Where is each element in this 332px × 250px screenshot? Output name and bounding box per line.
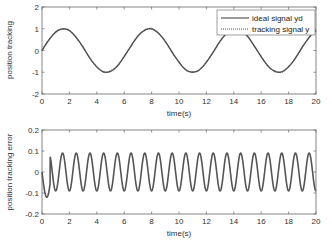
top-ytick-label: 0 bbox=[35, 47, 40, 56]
bottom-ytick-label: -0.1 bbox=[25, 189, 39, 198]
figure: 02468101214161820-2-1012 position tracki… bbox=[0, 0, 332, 250]
legend: ideal signal yd tracking signal y bbox=[217, 10, 315, 35]
bottom-xtick-label: 4 bbox=[95, 217, 100, 226]
bottom-xtick-label: 6 bbox=[122, 217, 127, 226]
top-x-label: time(s) bbox=[167, 109, 192, 118]
top-ytick-label: 1 bbox=[35, 25, 40, 34]
top-xtick-label: 4 bbox=[95, 97, 100, 106]
top-y-label: position tracking bbox=[5, 21, 14, 79]
top-ytick-label: -2 bbox=[32, 90, 40, 99]
bottom-xtick-label: 0 bbox=[40, 217, 45, 226]
top-xtick-label: 16 bbox=[257, 97, 266, 106]
bottom-xtick-label: 10 bbox=[175, 217, 184, 226]
bottom-xtick-label: 8 bbox=[149, 217, 154, 226]
top-xtick-label: 20 bbox=[312, 97, 321, 106]
bottom-ytick-label: -0.2 bbox=[25, 210, 39, 219]
top-xtick-label: 14 bbox=[229, 97, 238, 106]
legend-label-ideal: ideal signal yd bbox=[252, 14, 303, 23]
bottom-xtick-label: 20 bbox=[312, 217, 321, 226]
top-xtick-label: 6 bbox=[122, 97, 127, 106]
top-xtick-label: 8 bbox=[149, 97, 154, 106]
bottom-ytick-label: 0.1 bbox=[28, 147, 40, 156]
bottom-x-label: time(s) bbox=[167, 229, 192, 238]
legend-label-tracking: tracking signal y bbox=[252, 25, 309, 34]
top-xtick-label: 10 bbox=[175, 97, 184, 106]
bottom-xtick-label: 2 bbox=[67, 217, 72, 226]
bottom-ytick-label: 0.2 bbox=[28, 126, 40, 135]
bottom-axes-box bbox=[42, 130, 316, 214]
bottom-xtick-label: 14 bbox=[229, 217, 238, 226]
top-ytick-label: 2 bbox=[35, 3, 40, 12]
bottom-xtick-label: 12 bbox=[202, 217, 211, 226]
top-xtick-label: 2 bbox=[67, 97, 72, 106]
top-xtick-label: 0 bbox=[40, 97, 45, 106]
bottom-axes: 02468101214161820-0.2-0.100.10.2 positio… bbox=[5, 126, 321, 238]
top-axes: 02468101214161820-2-1012 position tracki… bbox=[5, 3, 321, 118]
bottom-y-label: position tracking error bbox=[5, 133, 14, 210]
bottom-xtick-label: 16 bbox=[257, 217, 266, 226]
top-xtick-label: 18 bbox=[284, 97, 293, 106]
bottom-ytick-label: 0 bbox=[35, 168, 40, 177]
top-xtick-label: 12 bbox=[202, 97, 211, 106]
top-ytick-label: -1 bbox=[32, 68, 40, 77]
bottom-xtick-label: 18 bbox=[284, 217, 293, 226]
